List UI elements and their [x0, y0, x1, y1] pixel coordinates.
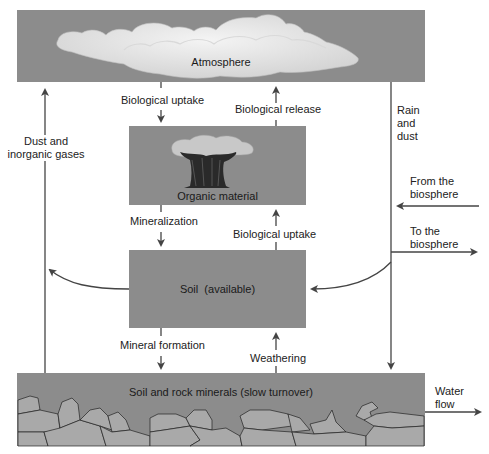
- rain-line-1: Rain: [397, 104, 420, 117]
- mineralization-label: Mineralization: [130, 215, 198, 228]
- soil-available-label: Soil (available): [129, 283, 306, 295]
- tree-icon: [172, 135, 254, 188]
- water-flow-label: Water flow: [435, 385, 464, 411]
- cloud-icon: [57, 15, 358, 79]
- water-line-2: flow: [435, 398, 464, 411]
- rock-layer: [18, 396, 424, 446]
- rain-dust-label: Rain and dust: [397, 104, 420, 143]
- rain-line-2: and: [397, 117, 420, 130]
- bio-uptake-mid-label: Biological uptake: [233, 228, 316, 241]
- organic-material-label: Organic material: [129, 190, 306, 202]
- from-line-1: From the: [410, 175, 458, 188]
- rain-line-3: dust: [397, 130, 420, 143]
- from-biosphere-label: From the biosphere: [410, 175, 458, 201]
- from-line-2: biosphere: [410, 188, 458, 201]
- water-line-1: Water: [435, 385, 464, 398]
- weathering-label: Weathering: [250, 352, 306, 365]
- to-line-1: To the: [410, 225, 458, 238]
- to-line-2: biosphere: [410, 238, 458, 251]
- dust-gases-label: Dust and inorganic gases: [6, 135, 86, 161]
- mineral-formation-label: Mineral formation: [120, 339, 205, 352]
- right-to-soil-arrow: [312, 262, 391, 289]
- dust-line-1: Dust and: [6, 135, 86, 148]
- soil-to-left-arrow: [50, 270, 129, 289]
- soil-rock-minerals-label: Soil and rock minerals (slow turnover): [17, 386, 425, 398]
- bio-uptake-top-label: Biological uptake: [121, 94, 204, 107]
- dust-line-2: inorganic gases: [6, 148, 86, 161]
- to-biosphere-label: To the biosphere: [410, 225, 458, 251]
- bio-release-label: Biological release: [235, 103, 321, 116]
- atmosphere-label: Atmosphere: [17, 56, 425, 68]
